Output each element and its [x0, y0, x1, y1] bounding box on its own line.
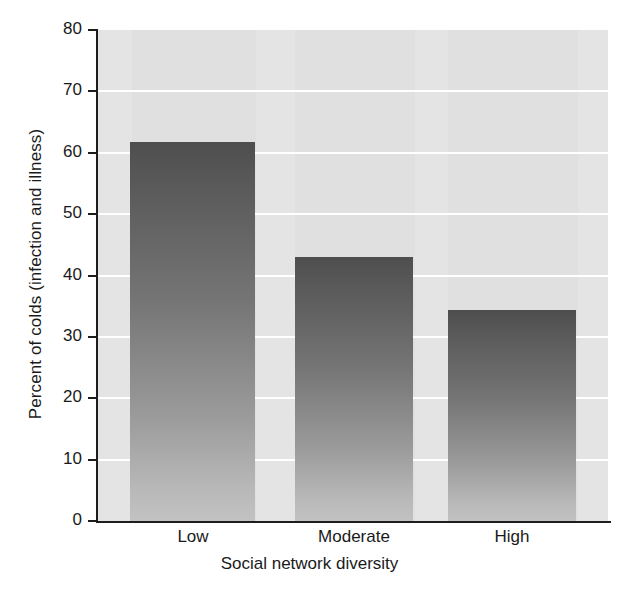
y-axis-tick-label: 70: [48, 80, 82, 100]
bar-moderate: [295, 257, 413, 521]
y-axis-tick: [88, 520, 97, 522]
y-axis-tick: [88, 213, 97, 215]
y-axis-tick: [88, 90, 97, 92]
y-axis-tick: [88, 459, 97, 461]
y-axis-tick-label: 30: [48, 326, 82, 346]
y-axis-tick-label: 20: [48, 387, 82, 407]
y-axis-tick: [88, 152, 97, 154]
y-axis-title: Percent of colds (infection and illness): [26, 24, 46, 524]
y-axis-tick-label: 50: [48, 203, 82, 223]
y-axis-tick: [88, 397, 97, 399]
x-axis-tick-label: High: [495, 527, 530, 547]
x-axis-tick-label: Moderate: [318, 527, 390, 547]
y-axis-tick-label: 0: [48, 510, 82, 530]
y-axis-tick-label: 40: [48, 265, 82, 285]
bar-low: [130, 142, 255, 521]
x-axis-tick-label: Low: [177, 527, 208, 547]
x-axis-line: [96, 521, 611, 523]
y-axis-tick-label: 60: [48, 142, 82, 162]
gridline: [98, 90, 608, 92]
plot-area: [98, 30, 608, 521]
bar-chart-figure: Percent of colds (infection and illness)…: [0, 0, 619, 589]
bar-high: [448, 310, 576, 521]
x-axis-title: Social network diversity: [0, 554, 619, 574]
y-axis-tick: [88, 29, 97, 31]
y-axis-tick-label: 10: [48, 449, 82, 469]
y-axis-tick: [88, 275, 97, 277]
y-axis-tick-labels: 01020304050607080: [44, 0, 82, 589]
y-axis-tick-label: 80: [48, 19, 82, 39]
y-axis-tick: [88, 336, 97, 338]
